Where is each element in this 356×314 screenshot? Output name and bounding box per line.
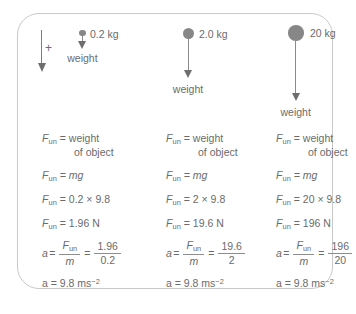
equation-text: = weight bbox=[294, 132, 333, 144]
equation-text: = mg bbox=[294, 169, 318, 181]
weight-arrow-head-icon bbox=[184, 70, 192, 78]
force-subscript: un bbox=[48, 137, 56, 146]
equation-formula: Fun = mg bbox=[276, 169, 356, 183]
equation-force-result: Fun = 1.96 N bbox=[42, 217, 150, 231]
equation-force-result: Fun = 19.6 N bbox=[166, 217, 274, 231]
fraction-denominator: m bbox=[59, 254, 80, 267]
weight-label: weight bbox=[67, 53, 97, 64]
fraction-force-over-mass: Fun m bbox=[293, 240, 314, 267]
equation-word-form: Fun = weight of object bbox=[42, 132, 150, 159]
weight-arrow-head-icon bbox=[292, 93, 300, 101]
equation-text: = 0.2 × 9.8 bbox=[60, 193, 110, 205]
weight-arrow-shaft bbox=[188, 38, 189, 72]
force-subscript: un bbox=[282, 198, 290, 207]
force-subscript: un bbox=[303, 244, 311, 253]
force-subscript: un bbox=[193, 244, 201, 253]
positive-direction-key: + bbox=[36, 30, 66, 74]
fraction-denominator: 0.2 bbox=[94, 253, 120, 266]
physics-figure-panel: + 0.2 kg weight 2.0 kg weight 20 kg weig… bbox=[17, 13, 333, 289]
equation-text: = mg bbox=[60, 169, 84, 181]
fraction-numerator: Fun bbox=[293, 240, 314, 254]
fraction-force-over-mass: Fun m bbox=[183, 240, 204, 267]
equation-word-form: Fun = weight of object bbox=[276, 132, 356, 159]
equation-text: = 196 N bbox=[294, 217, 331, 229]
equals-sign: = bbox=[172, 247, 181, 260]
force-subscript: un bbox=[282, 174, 290, 183]
weight-label: weight bbox=[173, 84, 203, 95]
mass-label: 20 kg bbox=[310, 28, 336, 39]
fraction-numerator: 1.96 bbox=[94, 241, 120, 253]
force-subscript: un bbox=[172, 137, 180, 146]
equation-column-20kg: Fun = weight of object Fun = mg Fun = 20… bbox=[276, 132, 356, 290]
equation-acceleration: a = Fun m = 1.96 0.2 bbox=[42, 240, 150, 267]
force-subscript: un bbox=[48, 198, 56, 207]
weight-arrow-head-icon bbox=[78, 41, 86, 49]
equation-text-cont: of object bbox=[276, 146, 356, 159]
force-subscript: un bbox=[172, 198, 180, 207]
equation-text-cont: of object bbox=[166, 146, 274, 159]
weight-label: weight bbox=[281, 107, 311, 118]
equation-force-result: Fun = 196 N bbox=[276, 217, 356, 231]
equation-acceleration: a = Fun m = 19.6 2 bbox=[166, 240, 274, 267]
equals-sign: = bbox=[207, 247, 216, 260]
equation-text: = 2 × 9.8 bbox=[184, 193, 225, 205]
equation-substitution: Fun = 2 × 9.8 bbox=[166, 193, 274, 207]
equals-sign: = bbox=[317, 247, 326, 260]
force-subscript: un bbox=[282, 222, 290, 231]
weight-arrow-shaft bbox=[295, 39, 296, 95]
force-subscript: un bbox=[69, 244, 77, 253]
equation-formula: Fun = mg bbox=[42, 169, 150, 183]
force-subscript: un bbox=[282, 137, 290, 146]
final-answer-text: a = 9.8 ms bbox=[42, 277, 91, 289]
equation-text: = 1.96 N bbox=[60, 217, 100, 229]
force-subscript: un bbox=[48, 174, 56, 183]
final-answer-exponent: −2 bbox=[91, 277, 99, 286]
fraction-numeric: 196 20 bbox=[328, 241, 352, 267]
force-subscript: un bbox=[48, 222, 56, 231]
fraction-denominator: 20 bbox=[328, 253, 352, 266]
fraction-numerator: Fun bbox=[59, 240, 80, 254]
final-answer-exponent: −2 bbox=[215, 277, 223, 286]
equation-substitution: Fun = 20 × 9.8 bbox=[276, 193, 356, 207]
equation-text: = 20 × 9.8 bbox=[294, 193, 341, 205]
fraction-numerator: 196 bbox=[328, 241, 352, 253]
equation-final-answer: a = 9.8 ms−2 bbox=[42, 277, 150, 290]
direction-arrow-shaft bbox=[41, 30, 42, 66]
equation-column-0-2kg: Fun = weight of object Fun = mg Fun = 0.… bbox=[42, 132, 150, 290]
equation-column-2-0kg: Fun = weight of object Fun = mg Fun = 2 … bbox=[166, 132, 274, 290]
equals-sign: = bbox=[83, 247, 92, 260]
mass-label: 2.0 kg bbox=[199, 29, 228, 40]
direction-arrow-head-icon bbox=[38, 63, 46, 72]
equation-text: = mg bbox=[184, 169, 208, 181]
fraction-numeric: 1.96 0.2 bbox=[94, 241, 120, 267]
force-subscript: un bbox=[172, 222, 180, 231]
fraction-numerator: Fun bbox=[183, 240, 204, 254]
equation-formula: Fun = mg bbox=[166, 169, 274, 183]
fraction-numerator: 19.6 bbox=[218, 241, 244, 253]
force-subscript: un bbox=[172, 174, 180, 183]
equation-word-form: Fun = weight of object bbox=[166, 132, 274, 159]
equals-sign: = bbox=[48, 247, 57, 260]
equation-final-answer: a = 9.8 ms−2 bbox=[166, 277, 274, 290]
final-answer-exponent: −2 bbox=[325, 277, 333, 286]
final-answer-text: a = 9.8 ms bbox=[276, 277, 325, 289]
fraction-denominator: m bbox=[293, 254, 314, 267]
equation-text: = weight bbox=[184, 132, 223, 144]
equation-text-cont: of object bbox=[42, 146, 150, 159]
equation-acceleration: a = Fun m = 196 20 bbox=[276, 240, 356, 267]
positive-sign-label: + bbox=[45, 42, 52, 54]
equals-sign: = bbox=[282, 247, 291, 260]
equation-final-answer: a = 9.8 ms−2 bbox=[276, 277, 356, 290]
final-answer-text: a = 9.8 ms bbox=[166, 277, 215, 289]
fraction-denominator: 2 bbox=[218, 253, 244, 266]
mass-label: 0.2 kg bbox=[90, 29, 119, 40]
equation-text: = 19.6 N bbox=[184, 217, 224, 229]
fraction-denominator: m bbox=[183, 254, 204, 267]
equation-substitution: Fun = 0.2 × 9.8 bbox=[42, 193, 150, 207]
fraction-force-over-mass: Fun m bbox=[59, 240, 80, 267]
equation-text: = weight bbox=[60, 132, 99, 144]
fraction-numeric: 19.6 2 bbox=[218, 241, 244, 267]
